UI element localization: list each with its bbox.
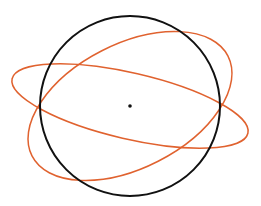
diagram-canvas <box>0 0 261 206</box>
tilted-ellipse <box>4 1 256 206</box>
center-point <box>128 104 132 108</box>
